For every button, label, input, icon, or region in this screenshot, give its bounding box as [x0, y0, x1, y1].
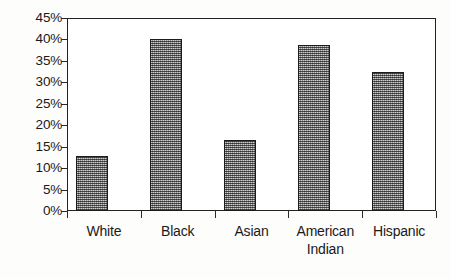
bar-chart: 45% 40% 35% 30% 25% 20% 15% 10% 5% 0%	[0, 0, 451, 279]
y-axis-tick-label: 35%	[2, 54, 62, 68]
x-axis-label-american-indian: American Indian	[288, 222, 362, 258]
bar-black[interactable]	[150, 39, 182, 211]
bar-white[interactable]	[76, 156, 108, 211]
x-axis-label-hispanic: Hispanic	[362, 222, 436, 240]
y-axis-tick-label: 25%	[2, 97, 62, 111]
x-axis-category-labels: White Black Asian American Indian Hispan…	[67, 222, 436, 279]
x-axis-tick	[362, 211, 363, 218]
y-axis-tick-label: 30%	[2, 75, 62, 89]
y-axis-tick-label: 0%	[2, 204, 62, 218]
y-axis-tick-label: 10%	[2, 161, 62, 175]
y-axis-tick-label: 20%	[2, 118, 62, 132]
bar-hispanic[interactable]	[372, 72, 404, 211]
x-axis-label-black: Black	[141, 222, 215, 240]
y-axis-tick-labels: 45% 40% 35% 30% 25% 20% 15% 10% 5% 0%	[0, 0, 62, 279]
x-axis-tick	[141, 211, 142, 218]
y-axis-tick-label: 5%	[2, 183, 62, 197]
y-axis-tick-label: 45%	[2, 11, 62, 25]
y-axis-tick-label: 40%	[2, 32, 62, 46]
bar-american-indian[interactable]	[298, 45, 330, 211]
x-axis-label-asian: Asian	[215, 222, 289, 240]
x-axis-tick	[215, 211, 216, 218]
bar-asian[interactable]	[224, 140, 256, 211]
x-axis-tick	[288, 211, 289, 218]
x-axis-tick	[436, 211, 437, 218]
y-axis-tick-label: 15%	[2, 140, 62, 154]
bars-layer	[67, 18, 436, 211]
x-axis-label-white: White	[67, 222, 141, 240]
x-axis-tick	[67, 211, 68, 218]
